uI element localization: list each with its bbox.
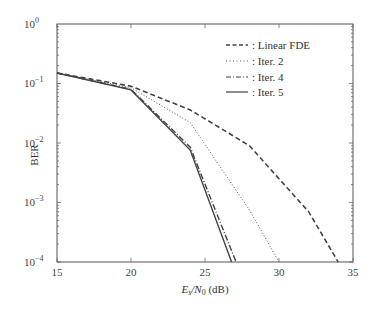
y-tick-3: 10−3 <box>24 194 44 208</box>
x-tick-20: 20 <box>126 266 138 278</box>
x-tick-35: 35 <box>348 266 360 278</box>
legend-label-linear-fde: : Linear FDE <box>252 39 310 51</box>
y-axis-label: BER <box>28 144 40 166</box>
x-tick-labels: 15 20 25 30 35 <box>52 266 360 278</box>
series-iter-4 <box>57 73 236 262</box>
legend-label-iter-2: : Iter. 2 <box>252 55 283 67</box>
legend-label-iter-5: : Iter. 5 <box>252 86 284 98</box>
x-axis-label: Es/N0 (dB) <box>180 283 229 297</box>
ber-chart: 100 10−1 10−2 10−3 10−4 15 20 25 30 35 B… <box>0 0 373 312</box>
x-tick-15: 15 <box>52 266 64 278</box>
y-tick-labels: 100 10−1 10−2 10−3 10−4 <box>24 16 44 268</box>
series-lines <box>57 73 338 262</box>
y-tick-4: 10−4 <box>24 254 44 268</box>
x-tick-25: 25 <box>200 266 212 278</box>
x-tick-30: 30 <box>274 266 286 278</box>
y-tick-0: 100 <box>24 16 39 30</box>
legend: : Linear FDE : Iter. 2 : Iter. 4 : Iter.… <box>226 39 310 98</box>
legend-label-iter-4: : Iter. 4 <box>252 71 284 83</box>
minor-ticks <box>57 24 353 262</box>
plot-frame <box>57 24 353 262</box>
y-tick-1: 10−1 <box>24 75 44 89</box>
